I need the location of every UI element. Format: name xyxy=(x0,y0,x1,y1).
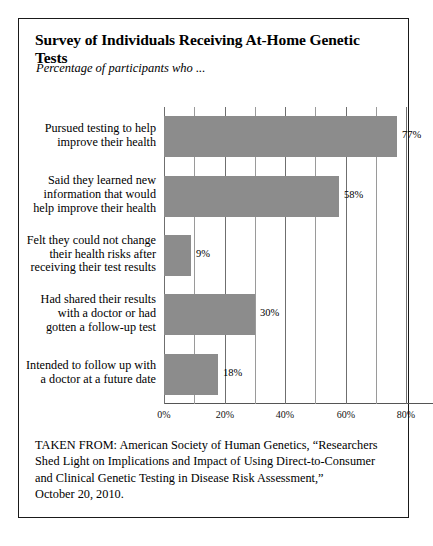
category-label-line: their health risks after xyxy=(18,248,156,262)
bar xyxy=(164,116,397,157)
figure-frame: Survey of Individuals Receiving At-Home … xyxy=(18,18,409,518)
chart-subtitle: Percentage of participants who ... xyxy=(36,61,376,75)
category-label-line: help improve their health xyxy=(18,202,156,216)
category-label: Said they learned newinformation that wo… xyxy=(18,174,156,216)
category-label-line: improve their health xyxy=(18,136,156,150)
gridline-80 xyxy=(406,107,407,404)
x-tick-label-0: 0% xyxy=(144,409,184,420)
x-tick-label-20: 20% xyxy=(205,409,245,420)
bar xyxy=(164,176,339,217)
category-label-line: gotten a follow-up test xyxy=(18,321,156,335)
category-label-line: with a doctor or had xyxy=(18,307,156,321)
category-label-line: Pursued testing to help xyxy=(18,122,156,136)
bar-value-label: 9% xyxy=(196,248,210,259)
category-label-line: a doctor at a future date xyxy=(18,373,156,387)
category-label-line: receiving their test results xyxy=(18,261,156,275)
bar xyxy=(164,294,255,335)
source-note-line: TAKEN FROM: American Society of Human Ge… xyxy=(35,437,397,453)
category-label: Had shared their resultswith a doctor or… xyxy=(18,293,156,335)
category-label: Intended to follow up witha doctor at a … xyxy=(18,359,156,387)
bar xyxy=(164,354,218,395)
bar-chart: 0%20%40%60%80%77%58%9%30%18% Pursued tes… xyxy=(19,97,410,427)
bar-value-label: 77% xyxy=(402,129,421,140)
category-label: Felt they could not changetheir health r… xyxy=(18,234,156,276)
plot-area: 0%20%40%60%80%77%58%9%30%18% xyxy=(164,107,406,404)
x-axis-line xyxy=(164,403,433,404)
source-note: TAKEN FROM: American Society of Human Ge… xyxy=(35,437,397,502)
category-label-line: Felt they could not change xyxy=(18,234,156,248)
bar-value-label: 18% xyxy=(223,367,242,378)
bar-value-label: 58% xyxy=(344,189,363,200)
x-tick-label-60: 60% xyxy=(326,409,366,420)
bar xyxy=(164,235,191,276)
x-tick-label-80: 80% xyxy=(386,409,426,420)
category-label-line: Had shared their results xyxy=(18,293,156,307)
source-note-line: Shed Light on Implications and Impact of… xyxy=(35,453,397,469)
category-label: Pursued testing to helpimprove their hea… xyxy=(18,122,156,150)
source-note-line: October 20, 2010. xyxy=(35,486,397,502)
category-label-line: information that would xyxy=(18,188,156,202)
source-note-line: and Clinical Genetic Testing in Disease … xyxy=(35,470,397,486)
category-label-line: Intended to follow up with xyxy=(18,359,156,373)
x-tick-label-40: 40% xyxy=(265,409,305,420)
category-label-line: Said they learned new xyxy=(18,174,156,188)
bar-value-label: 30% xyxy=(260,307,279,318)
